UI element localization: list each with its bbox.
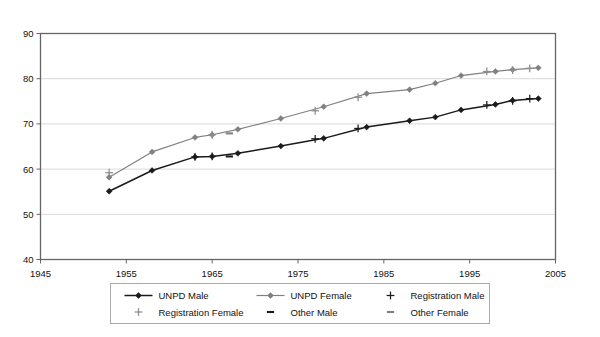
life-expectancy-line-chart: 908070605040 194519551965197519851995200… (0, 0, 600, 337)
y-axis-label: 40 (23, 254, 34, 265)
chart-legend: UNPD MaleUNPD FemaleRegistration MaleReg… (111, 284, 490, 324)
x-axis-label: 1975 (287, 268, 308, 279)
x-axis-label: 1995 (459, 268, 480, 279)
chart-container: 908070605040 194519551965197519851995200… (0, 0, 600, 337)
x-axis-label: 1985 (373, 268, 394, 279)
legend-label: UNPD Female (291, 290, 352, 301)
y-axis-label: 50 (23, 209, 34, 220)
y-axis-label: 90 (23, 28, 34, 39)
legend-label: Other Female (411, 307, 469, 318)
legend-label: Registration Male (411, 290, 485, 301)
legend-label: Registration Female (159, 307, 244, 318)
legend-label: Other Male (291, 307, 338, 318)
legend-label: UNPD Male (159, 290, 209, 301)
y-axis-label: 70 (23, 118, 34, 129)
x-axis-label: 2005 (545, 268, 566, 279)
y-axis-label: 60 (23, 164, 34, 175)
x-axis-label: 1955 (116, 268, 137, 279)
x-axis-label: 1945 (30, 268, 51, 279)
x-axis-label: 1965 (202, 268, 223, 279)
y-axis-label: 80 (23, 73, 34, 84)
